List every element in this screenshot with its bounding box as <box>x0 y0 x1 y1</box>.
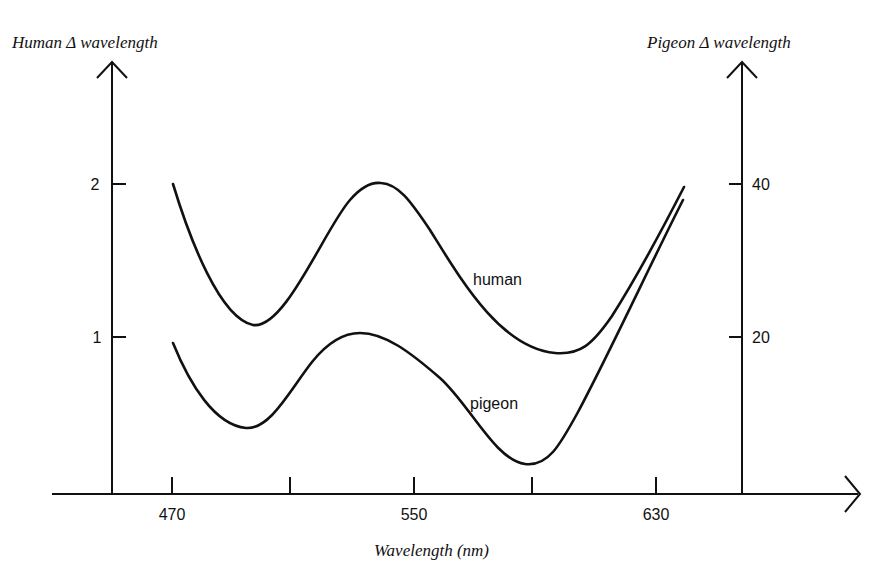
left-tick-1: 1 <box>93 329 102 346</box>
chart: Human Δ wavelength Pigeon Δ wavelength W… <box>0 0 891 579</box>
right-axis-title: Pigeon Δ wavelength <box>646 33 791 52</box>
human-curve <box>173 183 684 353</box>
left-y-axis <box>97 62 127 494</box>
x-axis-title: Wavelength (nm) <box>374 541 489 560</box>
pigeon-curve <box>173 200 683 464</box>
right-tick-40: 40 <box>752 176 770 193</box>
x-tick-470: 470 <box>159 506 186 523</box>
right-y-axis <box>727 62 757 494</box>
x-tick-630: 630 <box>643 506 670 523</box>
left-tick-2: 2 <box>91 176 100 193</box>
right-tick-20: 20 <box>752 329 770 346</box>
x-tick-550: 550 <box>401 506 428 523</box>
left-axis-title: Human Δ wavelength <box>11 33 158 52</box>
human-label: human <box>473 271 522 288</box>
pigeon-label: pigeon <box>470 395 518 412</box>
